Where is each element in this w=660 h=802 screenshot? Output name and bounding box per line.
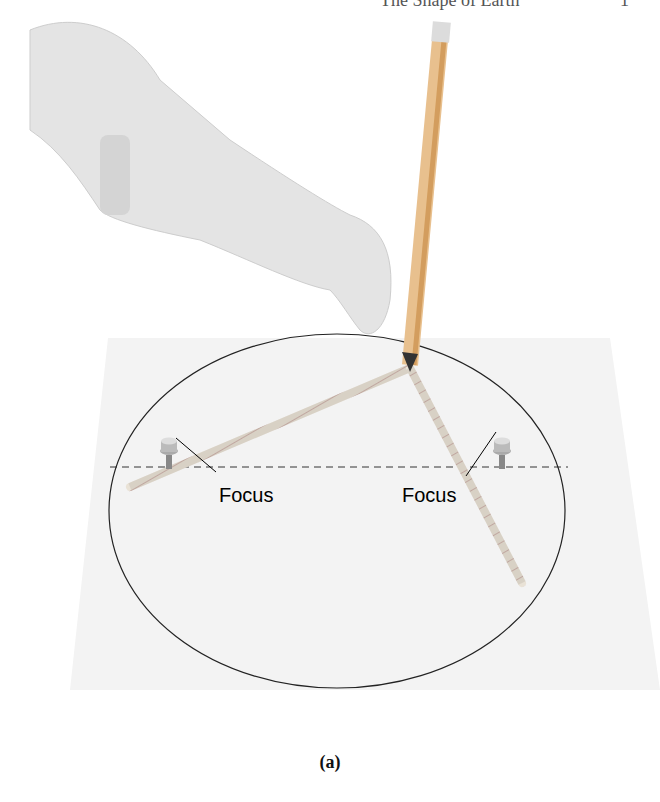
ellipse-drawing-diagram xyxy=(0,0,660,802)
focus-label-right: Focus xyxy=(402,484,456,507)
hand-illustration xyxy=(30,22,391,333)
figure-caption: (a) xyxy=(0,752,660,773)
focus-label-left: Focus xyxy=(219,484,273,507)
pencil-icon xyxy=(402,21,451,372)
